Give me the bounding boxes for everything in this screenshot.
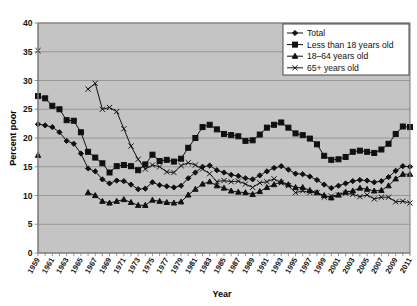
data-point-1-38 — [307, 136, 312, 141]
data-point-1-10 — [107, 170, 112, 175]
data-point-1-44 — [350, 149, 355, 154]
data-point-1-9 — [100, 161, 105, 166]
data-point-1-18 — [164, 157, 169, 162]
y-tick-label-25: 25 — [23, 104, 33, 114]
data-point-1-31 — [257, 132, 262, 137]
chart-legend: TotalLess than 18 years old18–64 years o… — [283, 24, 409, 75]
y-tick-label-10: 10 — [23, 191, 33, 201]
legend-label-0: Total — [307, 28, 325, 38]
chart-container: 0510152025303540 19591961196319651967196… — [0, 0, 417, 306]
data-point-1-43 — [343, 154, 348, 159]
data-point-1-34 — [279, 120, 284, 125]
data-point-1-13 — [129, 164, 134, 169]
legend-marker-square — [293, 42, 298, 47]
y-tick-label-20: 20 — [23, 133, 33, 143]
y-axis-title: Percent poor — [8, 110, 18, 166]
data-point-1-51 — [400, 124, 405, 129]
legend-label-2: 18–64 years old — [307, 51, 368, 61]
data-point-1-29 — [243, 138, 248, 143]
data-point-1-37 — [300, 133, 305, 138]
data-point-1-26 — [222, 131, 227, 136]
data-point-1-25 — [214, 127, 219, 132]
data-point-1-23 — [200, 125, 205, 130]
x-axis-title: Year — [212, 289, 232, 299]
data-point-1-27 — [229, 133, 234, 138]
data-point-1-45 — [357, 148, 362, 153]
data-point-1-46 — [365, 149, 370, 154]
data-point-1-24 — [207, 122, 212, 127]
data-point-1-11 — [114, 164, 119, 169]
y-tick-label-5: 5 — [28, 219, 33, 229]
data-point-1-21 — [186, 145, 191, 150]
data-point-1-1 — [43, 96, 48, 101]
data-point-1-3 — [57, 107, 62, 112]
y-tick-label-30: 30 — [23, 76, 33, 86]
y-tick-label-40: 40 — [23, 18, 33, 28]
data-point-1-19 — [171, 159, 176, 164]
data-point-1-14 — [136, 168, 141, 173]
y-tick-label-35: 35 — [23, 47, 33, 57]
data-point-1-36 — [293, 131, 298, 136]
data-point-1-49 — [386, 141, 391, 146]
poverty-rate-line-chart: 0510152025303540 19591961196319651967196… — [0, 0, 417, 306]
data-point-1-30 — [250, 138, 255, 143]
data-point-1-50 — [393, 131, 398, 136]
legend-label-1: Less than 18 years old — [307, 40, 394, 50]
data-point-1-48 — [379, 147, 384, 152]
data-point-1-5 — [71, 118, 76, 123]
data-point-1-22 — [193, 136, 198, 141]
data-point-1-40 — [322, 153, 327, 158]
data-point-1-42 — [336, 157, 341, 162]
y-tick-label-0: 0 — [28, 248, 33, 258]
data-point-1-8 — [93, 155, 98, 160]
data-point-1-28 — [236, 134, 241, 139]
data-point-1-39 — [315, 142, 320, 147]
y-tick-label-15: 15 — [23, 162, 33, 172]
data-point-1-32 — [264, 125, 269, 130]
data-point-1-4 — [64, 118, 69, 123]
data-point-1-16 — [150, 152, 155, 157]
data-point-1-41 — [329, 157, 334, 162]
data-point-1-33 — [272, 122, 277, 127]
legend-label-3: 65+ years old — [307, 63, 359, 73]
data-point-1-17 — [157, 159, 162, 164]
data-point-1-35 — [286, 125, 291, 130]
data-point-1-6 — [78, 130, 83, 135]
data-point-1-2 — [50, 103, 55, 108]
data-point-1-47 — [372, 150, 377, 155]
data-point-1-7 — [86, 149, 91, 154]
data-point-1-12 — [121, 163, 126, 168]
data-point-1-20 — [179, 156, 184, 161]
